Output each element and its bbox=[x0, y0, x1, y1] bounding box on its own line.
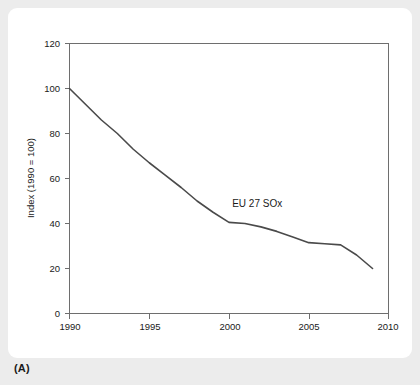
y-tick-label-80: 80 bbox=[49, 128, 60, 139]
chart-card: 0 20 40 60 80 100 120 1990 1995 2000 200… bbox=[8, 8, 412, 358]
x-tick-label-2000: 2000 bbox=[219, 321, 240, 332]
y-axis-ticks bbox=[65, 44, 70, 314]
series-annotation-eu27-sox: EU 27 SOx bbox=[232, 198, 282, 209]
y-tick-label-20: 20 bbox=[49, 263, 60, 274]
y-axis-title: Index (1990 = 100) bbox=[25, 138, 36, 218]
x-tick-label-2005: 2005 bbox=[298, 321, 319, 332]
y-tick-label-40: 40 bbox=[49, 218, 60, 229]
x-tick-label-1995: 1995 bbox=[139, 321, 160, 332]
x-tick-label-1990: 1990 bbox=[59, 321, 80, 332]
y-tick-label-120: 120 bbox=[44, 38, 60, 49]
x-tick-label-2010: 2010 bbox=[377, 321, 398, 332]
y-tick-label-100: 100 bbox=[44, 83, 60, 94]
figure-caption: (A) bbox=[14, 362, 30, 374]
y-tick-label-0: 0 bbox=[55, 308, 60, 319]
line-chart: 0 20 40 60 80 100 120 1990 1995 2000 200… bbox=[8, 8, 412, 358]
figure-root: 0 20 40 60 80 100 120 1990 1995 2000 200… bbox=[0, 0, 420, 385]
x-axis-ticks bbox=[70, 314, 389, 319]
y-tick-label-60: 60 bbox=[49, 173, 60, 184]
series-line-eu27-sox bbox=[70, 89, 373, 269]
